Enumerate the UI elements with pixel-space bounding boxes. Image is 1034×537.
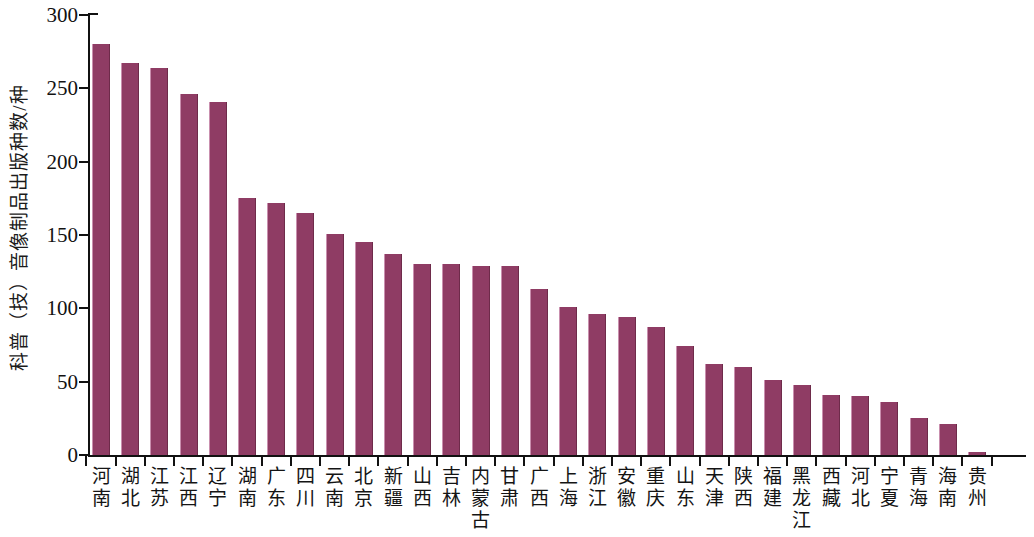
x-axis-tick [85,455,87,466]
bar-chart: 科普（技）音像制品出版种数/种 050100150200250300 河南湖北江… [0,0,1034,537]
x-axis-tick [290,455,292,466]
y-axis-tick-labels: 050100150200250300 [34,0,82,465]
x-axis-category-label: 山西 [409,466,435,510]
bar [442,264,460,455]
y-axis-tick-label: 150 [47,225,79,246]
x-axis-category-label: 宁夏 [876,466,902,510]
bar [267,203,285,455]
bar [588,314,606,455]
x-axis-category-label: 海南 [935,466,961,510]
bar [705,364,723,455]
x-axis-category-label: 新疆 [380,466,406,510]
y-axis-tick-label: 250 [47,78,79,99]
y-axis-tick-label: 300 [47,5,79,26]
x-axis-tick [786,455,788,466]
y-axis-title-text: 科普（技）音像制品出版种数/种 [4,84,31,370]
x-axis-tick [611,455,613,466]
x-axis-category-label: 西藏 [818,466,844,510]
x-axis-tick [231,455,233,466]
y-axis-tick [79,161,90,163]
bar [647,327,665,455]
x-axis-tick [407,455,409,466]
x-axis-category-label: 陕西 [730,466,756,510]
bar [472,266,490,455]
x-axis-tick [377,455,379,466]
x-axis-tick [553,455,555,466]
bar [822,395,840,455]
x-axis-category-label: 山东 [672,466,698,510]
x-axis-tick [465,455,467,466]
x-axis-tick [757,455,759,466]
bar [355,242,373,455]
x-axis-category-label: 安徽 [614,466,640,510]
bar [209,102,227,455]
bar [793,385,811,455]
x-axis-tick [961,455,963,466]
y-axis-tick-label: 100 [47,298,79,319]
x-axis-category-label: 河北 [847,466,873,510]
x-axis-tick [903,455,905,466]
bar [734,367,752,455]
x-axis-category-label: 甘肃 [497,466,523,510]
y-axis-tick [79,14,90,16]
x-axis-category-label: 福建 [760,466,786,510]
x-axis-category-label: 河南 [88,466,114,510]
x-axis-category-label: 广西 [526,466,552,510]
x-axis-category-label: 四川 [292,466,318,510]
x-axis-tick [640,455,642,466]
bar [618,317,636,455]
bar [150,68,168,455]
bar [180,94,198,455]
x-axis-category-label: 云南 [322,466,348,510]
x-axis-category-label: 江苏 [146,466,172,510]
x-axis-tick [115,455,117,466]
x-axis-category-label: 湖南 [234,466,260,510]
bar [296,213,314,455]
y-axis-title: 科普（技）音像制品出版种数/种 [0,0,34,455]
x-axis-tick [874,455,876,466]
bar [676,346,694,455]
x-axis-tick [494,455,496,466]
y-axis-tick [79,234,90,236]
x-axis-category-label: 天津 [701,466,727,510]
bar [764,380,782,455]
x-axis-category-label: 内蒙古 [468,466,494,532]
x-axis-category-labels: 河南湖北江苏江西辽宁湖南广东四川云南北京新疆山西吉林内蒙古甘肃广西上海浙江安徽重… [88,466,1026,537]
x-axis-category-label: 青海 [906,466,932,510]
y-axis-tick [79,87,90,89]
bar [939,424,957,455]
x-axis-category-label: 江西 [176,466,202,510]
bar [121,63,139,455]
x-axis-tick [144,455,146,466]
bar [326,234,344,455]
y-axis-tick [79,381,90,383]
bar [910,418,928,455]
x-axis-category-label: 重庆 [643,466,669,510]
x-axis-category-label: 上海 [555,466,581,510]
x-axis-tick [202,455,204,466]
x-axis-category-label: 广东 [263,466,289,510]
x-axis-category-label: 黑龙江 [789,466,815,532]
bar [92,44,110,455]
x-axis-tick [932,455,934,466]
bar [238,198,256,455]
bar [413,264,431,455]
x-axis-tick [319,455,321,466]
x-axis-tick [348,455,350,466]
y-axis-tick-label: 50 [57,371,78,392]
bar [880,402,898,455]
x-axis-tick [991,455,993,466]
x-axis-tick [728,455,730,466]
x-axis-tick [523,455,525,466]
x-axis-category-label: 吉林 [438,466,464,510]
x-axis-category-label: 北京 [351,466,377,510]
x-axis-tick [582,455,584,466]
x-axis-tick [699,455,701,466]
y-axis-tick [79,307,90,309]
bar [501,266,519,455]
x-axis-tick [173,455,175,466]
x-axis-tick [436,455,438,466]
y-axis-tick-label: 200 [47,151,79,172]
x-axis-line [88,455,1026,457]
x-axis-category-label: 辽宁 [205,466,231,510]
